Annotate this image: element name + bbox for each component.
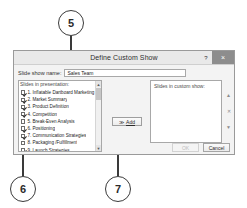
list-item[interactable]: 8. Packaging /Fulfillment <box>19 139 101 146</box>
checkbox-icon[interactable] <box>21 98 25 102</box>
dialog-titlebar: Define Custom Show ? × <box>14 51 234 65</box>
checkbox-icon[interactable] <box>21 112 25 116</box>
list-item-label: 4. Competition <box>27 112 57 117</box>
list-item-label: 3. Product Definition <box>27 104 68 109</box>
slides-in-custom-show-list[interactable]: Slides in custom show: <box>150 80 222 143</box>
double-chevron-right-icon: ≫ <box>119 119 124 125</box>
checkbox-icon[interactable] <box>21 126 25 130</box>
list-item[interactable]: 6. Positioning <box>19 125 101 132</box>
dialog-footer: OK Cancel <box>172 143 230 152</box>
slide-show-name-input[interactable] <box>64 69 186 77</box>
list-item-label: 8. Packaging /Fulfillment <box>27 140 77 145</box>
list-item[interactable]: 3. Product Definition <box>19 103 101 110</box>
define-custom-show-dialog: Define Custom Show ? × Slide show name: … <box>13 50 235 155</box>
remove-icon[interactable]: ✕ <box>225 107 233 115</box>
checkbox-icon[interactable] <box>21 105 25 109</box>
slide-show-name-label: Slide show name: <box>18 70 61 76</box>
ok-button[interactable]: OK <box>172 143 199 152</box>
add-button-label: Add <box>126 119 135 125</box>
scroll-down-icon[interactable]: ▼ <box>96 145 101 151</box>
list-item-label: 9. Launch Strategies <box>27 148 69 152</box>
slides-in-custom-show-panel: Slides in custom show: <box>150 80 222 143</box>
cancel-button[interactable]: Cancel <box>203 143 230 152</box>
list-item[interactable]: 5. Break-Even Analysis <box>19 118 101 125</box>
callout-7: 7 <box>105 176 131 202</box>
checkbox-icon[interactable] <box>21 141 25 145</box>
list-item[interactable]: 7. Communication Strategies <box>19 132 101 139</box>
dialog-body: Slide show name: Slides in presentation:… <box>14 65 234 155</box>
close-icon[interactable]: × <box>212 51 234 64</box>
callout-6: 6 <box>10 176 36 202</box>
move-down-icon[interactable]: ▼ <box>225 123 233 131</box>
help-icon[interactable]: ? <box>200 51 212 64</box>
slides-in-presentation-label: Slides in presentation: <box>20 81 71 87</box>
slides-in-presentation-panel: Slides in presentation: 1. Inflatable Da… <box>18 80 102 152</box>
slide-show-name-row: Slide show name: <box>18 69 186 77</box>
add-button[interactable]: ≫ Add <box>112 117 142 126</box>
list-item-label: 7. Communication Strategies <box>27 133 86 138</box>
checkbox-icon[interactable] <box>21 148 25 152</box>
dialog-title: Define Custom Show <box>90 54 158 61</box>
list-item-label: 1. Inflatable Dartboard Marketing Plan <box>27 90 99 95</box>
reorder-buttons: ▲ ✕ ▼ <box>224 91 233 131</box>
callout-5: 5 <box>58 10 84 36</box>
checkbox-icon[interactable] <box>21 134 25 138</box>
slides-in-presentation-list[interactable]: 1. Inflatable Dartboard Marketing Plan2.… <box>18 80 102 152</box>
list-item[interactable]: 4. Competition <box>19 111 101 118</box>
scroll-up-icon[interactable]: ▲ <box>96 81 101 87</box>
list-item[interactable]: 9. Launch Strategies <box>19 147 101 153</box>
scrollbar-thumb[interactable] <box>96 88 101 100</box>
list-item-label: 6. Positioning <box>27 126 55 131</box>
checkbox-icon[interactable] <box>21 119 25 123</box>
left-list-scrollbar[interactable]: ▲ ▼ <box>95 81 101 151</box>
list-item[interactable]: 1. Inflatable Dartboard Marketing Plan <box>19 89 101 96</box>
list-item-label: 5. Break-Even Analysis <box>27 119 74 124</box>
list-item-label: 2. Market Summary <box>27 97 67 102</box>
slides-in-custom-show-label: Slides in custom show: <box>154 83 205 89</box>
checkbox-icon[interactable] <box>21 90 25 94</box>
move-up-icon[interactable]: ▲ <box>225 91 233 99</box>
list-item[interactable]: 2. Market Summary <box>19 96 101 103</box>
